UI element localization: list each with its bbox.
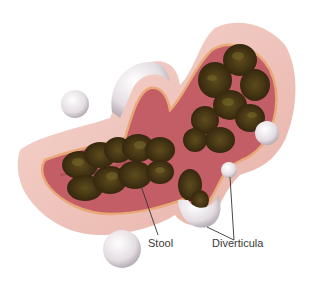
diverticula-label: Diverticula	[212, 237, 263, 249]
diverticula-leader-line-2	[230, 177, 234, 240]
diverticulum-right	[255, 121, 279, 145]
stool-label: Stool	[148, 237, 173, 249]
diverticulum-left	[61, 90, 89, 118]
diverticulum-lower-left	[103, 230, 141, 268]
diverticulum-small	[221, 162, 237, 178]
